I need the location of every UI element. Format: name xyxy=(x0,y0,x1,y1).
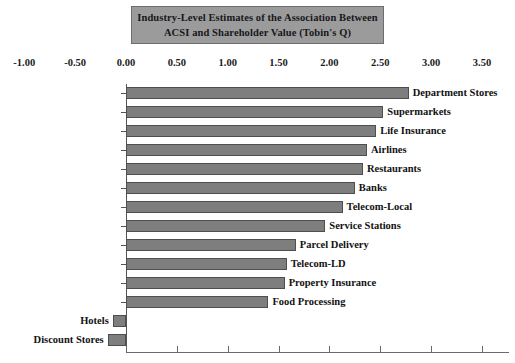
bar-label: Food Processing xyxy=(272,294,345,310)
bar[interactable] xyxy=(126,106,383,118)
bar-label: Telecom-Local xyxy=(347,199,413,215)
bar-row: Restaurants xyxy=(0,160,515,179)
bar[interactable] xyxy=(126,296,268,308)
chart-title-line-1: Industry-Level Estimates of the Associat… xyxy=(137,10,377,25)
bar[interactable] xyxy=(126,258,287,270)
x-tick-label: 1.50 xyxy=(269,57,287,68)
chart-title: Industry-Level Estimates of the Associat… xyxy=(131,6,384,44)
bar[interactable] xyxy=(126,144,367,156)
bar[interactable] xyxy=(126,182,355,194)
x-tick-label: 2.00 xyxy=(320,57,338,68)
bar-label: Telecom-LD xyxy=(291,256,346,272)
bar-row: Department Stores xyxy=(0,84,515,103)
x-tick-label: 3.50 xyxy=(473,57,491,68)
bar-label: Restaurants xyxy=(367,161,421,177)
chart-title-line-2: ACSI and Shareholder Value (Tobin's Q) xyxy=(164,25,351,40)
bar[interactable] xyxy=(126,220,325,232)
bar[interactable] xyxy=(126,87,409,99)
plot-area: Department StoresSupermarketsLife Insura… xyxy=(0,84,515,354)
x-tick-label: 1.00 xyxy=(219,57,237,68)
bar-row: Life Insurance xyxy=(0,122,515,141)
bar-row: Supermarkets xyxy=(0,103,515,122)
x-tick-label: 0.00 xyxy=(117,57,135,68)
x-tick-label: -1.00 xyxy=(13,57,35,68)
bar-row: Property Insurance xyxy=(0,274,515,293)
x-axis-tick-labels: -1.00-0.500.000.501.001.502.002.503.003.… xyxy=(0,57,515,73)
bottom-axis-line xyxy=(126,352,509,353)
bar-row: Parcel Delivery xyxy=(0,236,515,255)
bar[interactable] xyxy=(126,163,363,175)
bar[interactable] xyxy=(126,201,343,213)
bar-label: Hotels xyxy=(80,313,109,329)
bar[interactable] xyxy=(126,277,285,289)
bar-row: Hotels xyxy=(0,312,515,331)
x-tick-label: 2.50 xyxy=(371,57,389,68)
bar-label: Life Insurance xyxy=(380,123,446,139)
bar[interactable] xyxy=(126,239,296,251)
bar-row: Banks xyxy=(0,179,515,198)
bar-label: Supermarkets xyxy=(387,104,451,120)
x-tick-label: -0.50 xyxy=(64,57,86,68)
bar[interactable] xyxy=(113,315,126,327)
bar-label: Parcel Delivery xyxy=(300,237,369,253)
chart-container: Industry-Level Estimates of the Associat… xyxy=(0,0,515,363)
bar-row: Telecom-Local xyxy=(0,198,515,217)
bar[interactable] xyxy=(108,334,126,346)
x-tick-label: 3.00 xyxy=(422,57,440,68)
bar-label: Property Insurance xyxy=(289,275,377,291)
bar-label: Banks xyxy=(359,180,387,196)
bar-row: Telecom-LD xyxy=(0,255,515,274)
bar-row: Food Processing xyxy=(0,293,515,312)
bar-label: Department Stores xyxy=(413,85,498,101)
bar-row: Airlines xyxy=(0,141,515,160)
bar[interactable] xyxy=(126,125,376,137)
bar-row: Service Stations xyxy=(0,217,515,236)
bar-label: Service Stations xyxy=(329,218,400,234)
x-tick-label: 0.50 xyxy=(168,57,186,68)
bar-label: Airlines xyxy=(371,142,407,158)
